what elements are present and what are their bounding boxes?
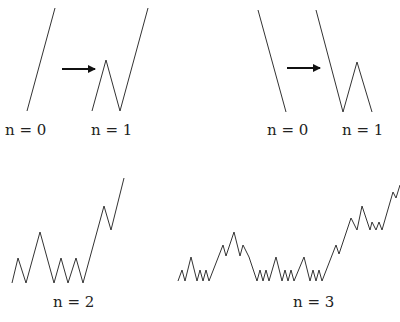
- diagram-canvas: [0, 0, 400, 322]
- label-n2: n = 2: [53, 293, 94, 311]
- curve-left-n0: [27, 8, 55, 111]
- curve-n2: [12, 178, 124, 283]
- curve-right-n1: [316, 10, 372, 112]
- fractal-iteration-diagram: n = 0 n = 1 n = 0 n = 1 n = 2 n = 3: [0, 0, 400, 322]
- label-left-n0: n = 0: [5, 121, 46, 139]
- label-right-n1: n = 1: [342, 121, 383, 139]
- curve-right-n0: [258, 10, 286, 112]
- curve-n3: [178, 185, 400, 281]
- curve-left-n1: [92, 8, 148, 111]
- label-left-n1: n = 1: [91, 121, 132, 139]
- label-right-n0: n = 0: [267, 121, 308, 139]
- label-n3: n = 3: [293, 293, 334, 311]
